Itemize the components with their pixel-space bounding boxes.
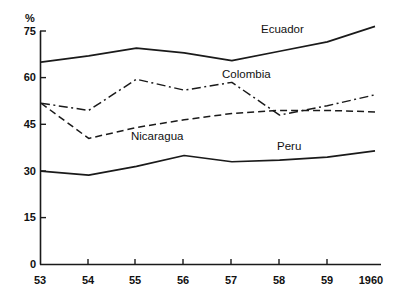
x-tick-label-57: 57 xyxy=(217,275,245,286)
series-label-colombia: Colombia xyxy=(222,69,271,81)
x-tick-label-56: 56 xyxy=(169,275,197,286)
x-tick-label-58: 58 xyxy=(265,275,293,286)
series-label-nicaragua: Nicaragua xyxy=(131,131,183,143)
x-tick-label-54: 54 xyxy=(74,275,102,286)
series-label-ecuador: Ecuador xyxy=(261,24,304,36)
series-line-nicaragua xyxy=(41,103,375,138)
series-line-peru xyxy=(41,151,375,175)
series-label-peru: Peru xyxy=(277,141,301,153)
x-tick-label-55: 55 xyxy=(121,275,149,286)
series-lines xyxy=(41,26,375,175)
y-tick-label-60: 60 xyxy=(12,72,36,83)
y-axis-unit-label: % xyxy=(25,13,35,24)
x-tick-label-53: 53 xyxy=(26,275,54,286)
x-tick-label-59: 59 xyxy=(313,275,341,286)
y-tick-label-0: 0 xyxy=(12,259,36,270)
y-tick-label-15: 15 xyxy=(12,212,36,223)
x-tick-label-1960: 1960 xyxy=(353,275,389,286)
y-tick-label-75: 75 xyxy=(12,26,36,37)
line-chart: % 75 60 45 30 15 0 53 54 55 56 57 58 59 … xyxy=(0,0,393,302)
x-axis-ticks xyxy=(88,259,327,265)
chart-plot-area xyxy=(0,0,393,302)
y-tick-label-30: 30 xyxy=(12,166,36,177)
chart-axes xyxy=(40,31,381,265)
y-tick-label-45: 45 xyxy=(12,119,36,130)
series-line-ecuador xyxy=(41,26,375,62)
